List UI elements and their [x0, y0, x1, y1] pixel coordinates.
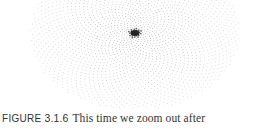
- caption-text: This time we zoom out after: [72, 112, 205, 124]
- caption-number: 3.1.6: [45, 112, 69, 124]
- spiral-point-cloud-figure: [0, 0, 265, 110]
- figure-caption: FIGURE3.1.6This time we zoom out after: [2, 112, 265, 132]
- caption-label: FIGURE: [2, 113, 42, 124]
